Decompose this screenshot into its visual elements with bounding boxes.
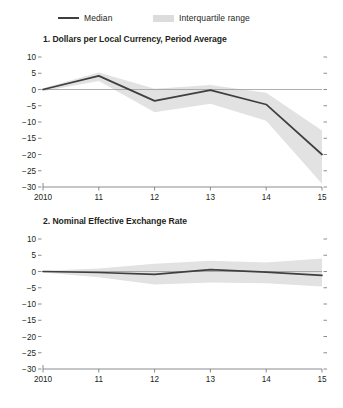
x-axis-tick-label: 2010 <box>34 193 53 202</box>
x-axis-tick-label: 2010 <box>34 375 53 384</box>
panel-1-plot: 1050−5−10−15−20−25−3020101112131415 <box>0 30 343 212</box>
x-axis-tick-label: 13 <box>206 193 216 202</box>
interquartile-band-swatch-icon <box>153 15 174 22</box>
legend-item-interquartile-range: Interquartile range <box>153 11 250 25</box>
y-axis-tick-label: −10 <box>22 300 36 309</box>
y-axis-tick-label: −15 <box>22 134 36 143</box>
y-axis-tick-label: −20 <box>22 333 36 342</box>
x-axis-tick-label: 11 <box>95 375 104 384</box>
figure-container: Median Interquartile range 1. Dollars pe… <box>0 0 343 408</box>
x-axis-tick-label: 13 <box>206 375 216 384</box>
y-axis-tick-label: −30 <box>22 183 36 192</box>
x-axis-tick-label: 12 <box>150 193 160 202</box>
x-axis-tick-label: 15 <box>317 193 327 202</box>
y-axis-tick-label: −10 <box>22 118 36 127</box>
y-axis-tick-label: 5 <box>31 251 36 260</box>
x-axis-tick-label: 14 <box>262 193 272 202</box>
chart-legend: Median Interquartile range <box>0 0 343 30</box>
y-axis-tick-label: −15 <box>22 316 36 325</box>
y-axis-tick-label: 5 <box>31 69 36 78</box>
legend-label-median: Median <box>84 13 112 23</box>
y-axis-tick-label: −25 <box>22 349 36 358</box>
x-axis-tick-label: 11 <box>95 193 104 202</box>
y-axis-tick-label: −25 <box>22 167 36 176</box>
panel-2-title: 2. Nominal Effective Exchange Rate <box>43 216 187 226</box>
y-axis-tick-label: 0 <box>31 86 36 95</box>
y-axis-tick-label: −20 <box>22 151 36 160</box>
y-axis-tick-label: −5 <box>27 102 37 111</box>
y-axis-tick-label: −30 <box>22 365 36 374</box>
chart-panel-1: 1. Dollars per Local Currency, Period Av… <box>0 30 343 212</box>
panel-2-plot: 1050−5−10−15−20−25−3020101112131415 <box>0 212 343 408</box>
median-line-swatch-icon <box>58 17 79 19</box>
y-axis-tick-label: 0 <box>31 268 36 277</box>
panel-1-title: 1. Dollars per Local Currency, Period Av… <box>43 34 227 44</box>
legend-label-interquartile-range: Interquartile range <box>179 13 250 23</box>
chart-panel-2: 2. Nominal Effective Exchange Rate 1050−… <box>0 212 343 408</box>
x-axis-tick-label: 12 <box>150 375 160 384</box>
y-axis-tick-label: −5 <box>27 284 37 293</box>
x-axis-tick-label: 14 <box>262 375 272 384</box>
x-axis-tick-label: 15 <box>317 375 327 384</box>
y-axis-tick-label: 10 <box>27 53 37 62</box>
y-axis-tick-label: 10 <box>27 235 37 244</box>
legend-item-median: Median <box>58 11 112 25</box>
